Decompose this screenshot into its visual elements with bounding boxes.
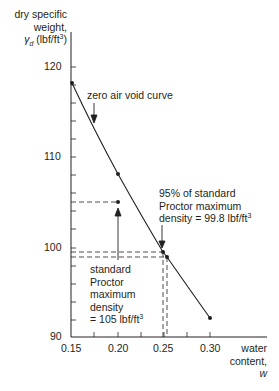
zero-air-void-label: zero air void curve (87, 89, 173, 102)
annotation-line: density = 99.8 lbf/ft3 (159, 212, 251, 225)
annotation-text: = 105 lbf/ft (90, 313, 139, 325)
data-point (208, 316, 212, 320)
y-axis-label-line: weight, (0, 21, 67, 34)
y-axis-label-line: dry specific (0, 8, 67, 21)
x-ticks (94, 332, 210, 337)
y-tick-label: 110 (44, 150, 61, 162)
w-symbol: w (259, 367, 267, 379)
x-axis-label-line: w (220, 367, 267, 380)
x-tick-label: 0.20 (108, 342, 128, 354)
x-tick-label: 0.25 (153, 342, 173, 354)
annotation-text: density = 99.8 lbf/ft (159, 212, 247, 224)
annotation-line: = 105 lbf/ft3 (90, 313, 143, 326)
y-ticks (71, 67, 76, 320)
standard-proctor-annotation: standard Proctor maximum density = 105 l… (90, 263, 143, 326)
standard-proctor-point (116, 200, 120, 204)
annotation-line: maximum (90, 288, 143, 301)
data-point (70, 81, 74, 85)
x-tick-label: 0.15 (61, 342, 81, 354)
data-point (116, 172, 120, 176)
arrow-down-icon (91, 115, 97, 123)
x-axis-label-line: content, (220, 355, 267, 368)
proctor-95-annotation: 95% of standard Proctor maximum density … (159, 187, 251, 225)
x-axis-label: water content, w (220, 342, 267, 380)
arrow-up-icon (115, 208, 121, 216)
annotation-line: Proctor maximum (159, 200, 251, 213)
unit-close: ) (64, 33, 68, 45)
annotation-line: 95% of standard (159, 187, 251, 200)
y-tick-label: 90 (50, 330, 62, 342)
annotation-line: standard (90, 263, 143, 276)
y-axis-label: dry specific weight, γd (lbf/ft3) (0, 8, 67, 51)
proctor-95-point (161, 250, 165, 254)
y-tick-label: 120 (44, 60, 62, 72)
y-axis-label-line: γd (lbf/ft3) (0, 33, 67, 51)
x-axis-label-line: water (220, 342, 267, 355)
superscript: 3 (247, 212, 251, 219)
data-point (165, 255, 169, 259)
superscript: 3 (139, 313, 143, 320)
annotation-line: Proctor (90, 276, 143, 289)
x-tick-label: 0.30 (200, 342, 220, 354)
y-tick-label: 100 (44, 241, 62, 253)
unit-text: (lbf/ft (33, 33, 59, 45)
annotation-line: density (90, 301, 143, 314)
